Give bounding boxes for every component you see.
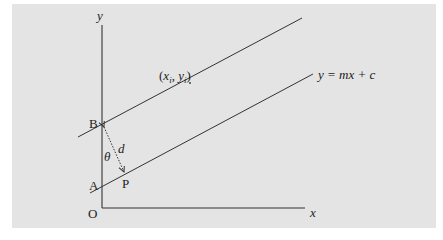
geometry-diagram (0, 0, 443, 240)
x-axis-label: x (310, 206, 316, 219)
point-p-label: P (122, 177, 129, 190)
data-point-label: (xi, yi) (159, 69, 191, 85)
y-axis-label: y (97, 9, 103, 22)
paren-close: ) (186, 68, 190, 83)
line-equation-label: y = mx + c (318, 68, 375, 81)
angle-theta-label: θ (104, 150, 110, 163)
point-b-label: B (89, 117, 98, 130)
point-a-label: A (89, 179, 98, 192)
distance-label: d (118, 142, 125, 155)
origin-label: O (88, 207, 97, 220)
